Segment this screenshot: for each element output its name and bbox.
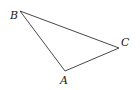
vertex-label-a: A <box>59 74 68 87</box>
vertex-label-c: C <box>121 36 130 49</box>
edge-bc <box>20 11 119 48</box>
edge-ca <box>65 48 119 71</box>
vertex-label-b: B <box>9 9 18 22</box>
triangle-diagram: B C A <box>0 0 140 90</box>
edge-ab <box>20 11 65 71</box>
